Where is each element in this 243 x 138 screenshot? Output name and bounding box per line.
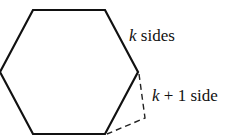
k-sides-text: sides bbox=[137, 26, 175, 45]
polygon-diagram bbox=[0, 0, 243, 138]
k-sides-label: k sides bbox=[129, 26, 175, 46]
k-variable: k bbox=[129, 26, 137, 45]
k-plus-one-label: k + 1 side bbox=[152, 86, 218, 106]
hexagon-shape bbox=[0, 10, 138, 134]
k-variable-2: k bbox=[152, 86, 160, 105]
k-plus-one-text: + 1 side bbox=[160, 86, 218, 105]
dashed-extra-side bbox=[107, 74, 145, 134]
